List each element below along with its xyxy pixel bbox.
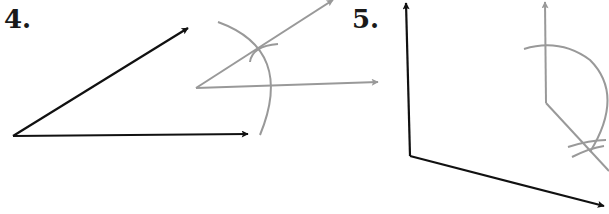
diagram-canvas: 4. 5. — [0, 0, 609, 214]
problem-5-construction — [524, 2, 609, 171]
problem-5-label: 5. — [352, 4, 379, 34]
problem-4-label: 4. — [4, 4, 31, 34]
problem-4-construction — [196, 0, 378, 135]
problem-4-given-angle — [13, 28, 248, 136]
problem-5-given-angle — [406, 3, 604, 206]
